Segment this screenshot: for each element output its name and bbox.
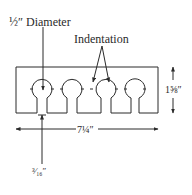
indentation-leader-right: [102, 46, 109, 82]
height-label: 1⅝″: [165, 84, 182, 95]
indentation-label: Indentation: [74, 32, 129, 46]
diameter-label: ½″ Diameter: [9, 15, 71, 29]
width-label: 7¼″: [77, 124, 94, 135]
indentation-leader-left: [93, 46, 102, 82]
slot-width-label: ³⁄₁₆″: [32, 166, 46, 176]
board-outline: [16, 67, 158, 113]
keyhole-board-diagram: ½″ Diameter Indentation 1⅝″ 7¼″ ³⁄₁₆″: [0, 0, 192, 195]
